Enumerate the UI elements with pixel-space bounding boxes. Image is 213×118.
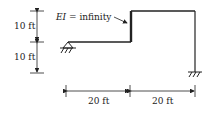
ei-annotation: EI = infinity	[55, 12, 127, 23]
pin-support-icon	[60, 42, 76, 53]
svg-text:EI = infinity: EI = infinity	[55, 12, 112, 22]
horizontal-dim-label-2: 20 ft	[152, 96, 174, 106]
horizontal-dim-label-1: 20 ft	[88, 96, 110, 106]
horizontal-dimension	[66, 85, 195, 97]
fixed-support-icon	[188, 72, 202, 77]
frame-diagram: EI = infinity 10 ft 10 ft 20 ft 20 ft	[0, 0, 213, 118]
vertical-dim-label-2: 10 ft	[14, 52, 36, 62]
vertical-dim-label-1: 10 ft	[14, 21, 36, 31]
